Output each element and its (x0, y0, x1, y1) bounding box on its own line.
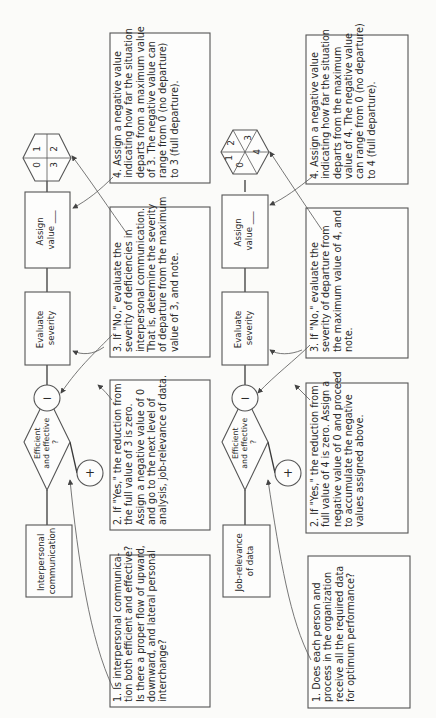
note-2-text: 2. If "Yes," the reduction from the full… (112, 375, 168, 525)
svg-text:1: 1 (224, 155, 234, 161)
value-hexagon-0-4: 0 1 2 3 4 (221, 130, 269, 174)
topic-label: Interpersonal communication (36, 528, 57, 594)
svg-text:0: 0 (235, 162, 245, 168)
pointer-arrow-4a (73, 177, 113, 208)
row-interpersonal-communication: Interpersonal communication Efficient an… (23, 23, 210, 707)
row-job-relevance-of-data: Job-relevance of data Efficient and effe… (221, 20, 410, 708)
minus-symbol: − (42, 391, 52, 405)
svg-text:3: 3 (49, 162, 59, 168)
pointer-arrow-1 (268, 480, 311, 660)
flow-diagram: Interpersonal communication Efficient an… (0, 0, 436, 718)
svg-text:2: 2 (49, 146, 59, 152)
evaluate-severity-label: Evaluate severity (35, 308, 56, 348)
svg-text:0: 0 (32, 162, 42, 168)
note-1-text: 1. Does each person and process in the o… (311, 563, 356, 702)
assign-value-label: Assign value ___ (35, 210, 56, 250)
connector (268, 442, 275, 473)
evaluate-severity-label: Evaluate severity (233, 308, 254, 348)
pointer-arrow-1 (70, 480, 113, 688)
svg-text:1: 1 (32, 146, 42, 152)
connector (70, 442, 77, 473)
value-hexagon-0-3: 0 1 2 3 (23, 134, 71, 181)
pointer-arrow-3b (270, 350, 302, 354)
svg-text:3: 3 (243, 135, 253, 141)
minus-symbol: − (240, 391, 250, 405)
svg-text:4: 4 (252, 149, 262, 155)
plus-symbol: + (283, 466, 293, 480)
assign-value-label: Assign value ___ (233, 211, 254, 251)
svg-text:2: 2 (226, 140, 236, 146)
plus-symbol: + (85, 466, 95, 480)
